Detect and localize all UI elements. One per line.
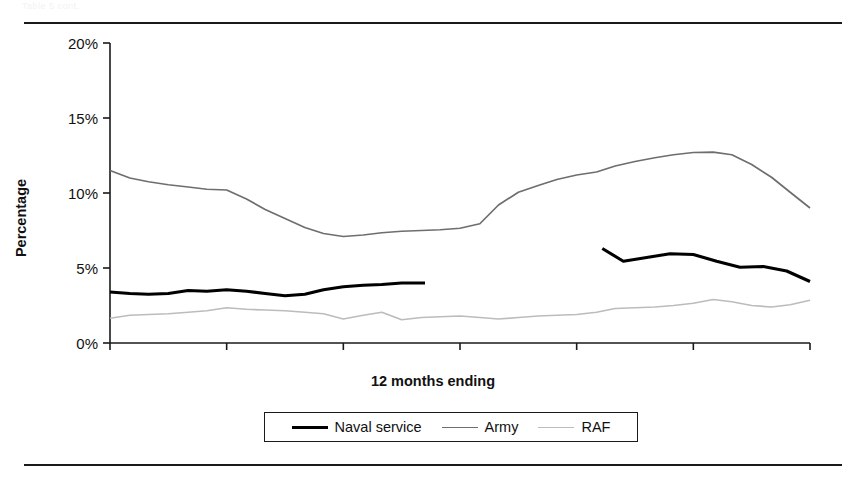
x-tick-label: 31 Mar 10: [777, 355, 842, 358]
series-line-naval-service: [110, 283, 425, 296]
y-axis-title: Percentage: [13, 179, 29, 257]
x-tick-label: 31 Mar 04: [77, 355, 142, 358]
x-axis-title: 12 months ending: [371, 373, 495, 389]
y-tick-label: 0%: [76, 335, 98, 352]
x-tick-label: 31 Mar 07: [427, 355, 492, 358]
y-tick-label: 5%: [76, 260, 98, 277]
plot-area: 0%5%10%15%20% 31 Mar 0431 Mar 0531 Mar 0…: [0, 28, 866, 358]
top-rule: [24, 22, 842, 24]
legend-label-army: Army: [485, 419, 519, 435]
y-tick-label: 20%: [68, 35, 98, 52]
legend-item-naval-service: Naval service: [292, 419, 422, 435]
legend-label-raf: RAF: [581, 419, 610, 435]
figure-ghost-header: Table 5 cont.: [22, 1, 80, 11]
x-axis: 31 Mar 0431 Mar 0531 Mar 0631 Mar 0731 M…: [77, 343, 842, 358]
legend-swatch-army: [442, 427, 478, 428]
series-lines: [110, 152, 810, 320]
legend-swatch-naval-service: [292, 426, 328, 429]
y-tick-label: 15%: [68, 110, 98, 127]
legend-item-raf: RAF: [538, 419, 610, 435]
y-tick-label: 10%: [68, 185, 98, 202]
series-line-naval-service: [602, 249, 810, 282]
y-axis: 0%5%10%15%20%: [68, 35, 110, 352]
x-tick-label: 31 Mar 05: [194, 355, 259, 358]
legend-label-naval-service: Naval service: [335, 419, 422, 435]
x-tick-label: 31 Mar 08: [544, 355, 609, 358]
line-chart-svg: 0%5%10%15%20% 31 Mar 0431 Mar 0531 Mar 0…: [0, 28, 866, 358]
x-tick-label: 31 Mar 06: [311, 355, 376, 358]
x-axis-title-wrap: 12 months ending: [0, 372, 866, 390]
chart-figure: Table 5 cont. 0%5%10%15%20% 31 Mar 0431 …: [0, 0, 866, 482]
bottom-rule: [24, 464, 842, 466]
series-line-army: [110, 152, 810, 236]
series-line-raf: [110, 300, 810, 320]
x-tick-label: 31 Mar 09: [661, 355, 726, 358]
legend-item-army: Army: [442, 419, 519, 435]
legend-swatch-raf: [538, 427, 574, 428]
chart-legend: Naval service Army RAF: [264, 412, 638, 442]
